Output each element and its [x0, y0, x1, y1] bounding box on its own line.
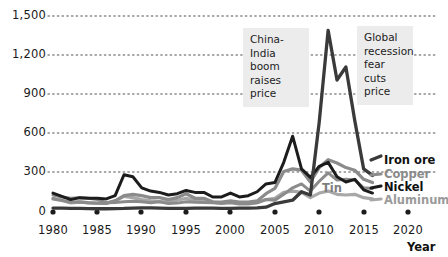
y-tick-label-900: 900: [2, 88, 46, 100]
commodity-price-line-chart: 1,500 1,200 900 600 300 0 1980 1985 1990…: [0, 0, 448, 257]
y-tick-1500: 1,500: [0, 10, 46, 22]
legend-stub-nickel: [371, 186, 381, 188]
y-tick-900: 900: [0, 88, 46, 100]
x-tick-dot-2010: [316, 209, 321, 214]
y-tick-600: 600: [0, 127, 46, 139]
x-tick-label-1985: 1985: [72, 225, 122, 237]
y-tick-label-0: 0: [2, 206, 46, 218]
legend-label-aluminum: Aluminum: [384, 195, 448, 207]
x-tick-dot-2020: [405, 209, 410, 214]
y-tick-0: 0: [0, 206, 46, 218]
annotation-line: recession: [364, 45, 407, 59]
x-tick-label-1995: 1995: [161, 225, 211, 237]
y-tick-1200: 1,200: [0, 49, 46, 61]
y-tick-label-1500: 1,500: [2, 10, 46, 22]
y-tick-label-300: 300: [2, 166, 46, 178]
annotation-line: boom raises: [250, 60, 303, 87]
x-axis-title: Year: [407, 242, 436, 254]
legend-label-copper: Copper: [384, 169, 430, 181]
annotation-global-recession: Global recession fear cuts price: [357, 26, 413, 105]
annotation-line: price: [250, 87, 303, 101]
x-tick-dot-2000: [227, 209, 232, 214]
y-tick-label-600: 600: [2, 127, 46, 139]
legend-stub-aluminum: [371, 199, 381, 200]
annotation-china-india-boom: China-India boom raises price: [243, 28, 309, 107]
x-tick-dot-1990: [138, 209, 143, 214]
legend-stub-iron-ore: [371, 156, 381, 160]
annotation-line: Global: [364, 31, 407, 45]
x-tick-label-2020: 2020: [383, 225, 433, 237]
annotation-line: China-India: [250, 33, 303, 60]
y-tick-300: 300: [0, 166, 46, 178]
x-tick-label-1980: 1980: [28, 225, 78, 237]
legend-label-iron-ore: Iron ore: [384, 155, 435, 167]
annotation-line: fear cuts: [364, 58, 407, 85]
x-tick-label-2015: 2015: [339, 225, 389, 237]
x-tick-label-1990: 1990: [116, 225, 166, 237]
annotation-line: price: [364, 85, 407, 99]
x-tick-dot-2015: [361, 209, 366, 214]
inline-label-tin: Tin: [322, 183, 342, 195]
legend-stub-copper: [371, 174, 381, 175]
x-tick-dot-1980: [50, 209, 55, 214]
x-tick-label-2010: 2010: [294, 225, 344, 237]
x-tick-label-2005: 2005: [250, 225, 300, 237]
y-tick-label-1200: 1,200: [2, 49, 46, 61]
legend-label-nickel: Nickel: [384, 182, 423, 194]
x-tick-label-2000: 2000: [205, 225, 255, 237]
x-tick-dot-1995: [183, 209, 188, 214]
x-tick-dot-2005: [272, 209, 277, 214]
